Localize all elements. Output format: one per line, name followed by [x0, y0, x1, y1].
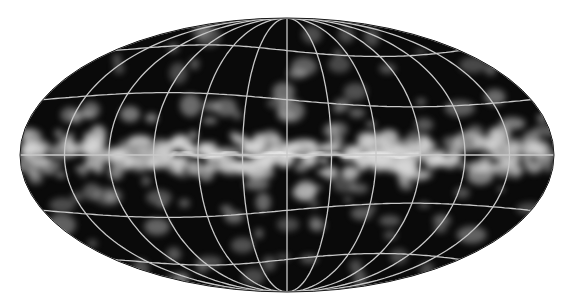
emission-patch: [175, 158, 182, 165]
emission-patch: [50, 198, 76, 212]
emission-patch: [169, 62, 187, 83]
emission-patch: [310, 200, 318, 208]
emission-patch: [309, 215, 321, 230]
emission-patch: [83, 183, 101, 200]
emission-patch: [467, 166, 493, 186]
emission-patch: [534, 146, 542, 153]
emission-patch: [38, 162, 49, 172]
emission-patch: [467, 125, 483, 140]
emission-patch: [332, 105, 344, 113]
emission-patch: [532, 125, 562, 137]
emission-patch: [269, 145, 279, 149]
emission-patch: [306, 184, 323, 191]
emission-patch: [259, 165, 275, 180]
emission-patch: [277, 218, 299, 232]
emission-patch: [180, 94, 201, 117]
emission-patch: [536, 152, 553, 168]
emission-patch: [401, 147, 406, 154]
emission-patch: [358, 165, 368, 170]
emission-patch: [231, 238, 254, 254]
emission-patch: [319, 158, 329, 163]
emission-patch: [522, 157, 532, 166]
emission-patch: [55, 129, 63, 137]
emission-patch: [459, 163, 466, 168]
emission-patch: [224, 211, 243, 224]
all-sky-map: [0, 0, 576, 304]
emission-patch: [179, 199, 190, 208]
emission-patch: [120, 106, 140, 122]
emission-patch: [368, 157, 391, 169]
emission-patch: [79, 170, 87, 177]
emission-patch: [144, 218, 169, 235]
emission-patch: [239, 160, 248, 168]
emission-patch: [47, 214, 76, 236]
emission-patch: [493, 159, 517, 178]
emission-patch: [51, 163, 63, 168]
emission-patch: [340, 144, 351, 152]
emission-patch: [416, 98, 426, 106]
emission-patch: [145, 113, 157, 123]
emission-patch: [256, 193, 271, 212]
emission-patch: [445, 100, 475, 116]
emission-patch: [317, 170, 326, 174]
emission-patch: [199, 166, 214, 181]
emission-patch: [349, 259, 362, 273]
emission-patch: [119, 139, 133, 149]
emission-patch: [404, 168, 417, 178]
emission-patch: [262, 256, 276, 271]
emission-patch: [244, 179, 269, 190]
emission-patch: [349, 108, 365, 118]
emission-patch: [243, 140, 268, 153]
emission-patch: [229, 131, 238, 139]
emission-patch: [433, 214, 451, 226]
emission-patch: [330, 137, 343, 145]
emission-patch: [291, 139, 319, 151]
emission-patch: [156, 155, 169, 168]
emission-patch: [353, 147, 363, 155]
emission-patch: [176, 136, 186, 142]
emission-patch: [255, 228, 264, 238]
emission-patch: [294, 163, 308, 173]
emission-patch: [328, 56, 350, 73]
emission-patch: [363, 139, 380, 149]
emission-patch: [399, 181, 413, 190]
emission-patch: [419, 137, 430, 143]
emission-patch: [88, 239, 98, 247]
emission-patch: [141, 176, 150, 186]
emission-patch: [113, 54, 122, 64]
emission-patch: [167, 247, 182, 261]
emission-patch: [27, 170, 41, 178]
emission-patch: [90, 135, 107, 149]
emission-patch: [56, 171, 65, 178]
emission-patch: [92, 160, 105, 175]
emission-patch: [67, 143, 80, 153]
emission-patch: [189, 131, 198, 140]
emission-patch: [379, 215, 401, 226]
emission-patch: [203, 118, 218, 124]
emission-patch: [344, 197, 352, 202]
emission-patch: [287, 69, 307, 79]
emission-patch: [415, 49, 428, 54]
emission-patch: [151, 147, 165, 155]
emission-patch: [518, 147, 528, 154]
emission-patch: [453, 155, 460, 161]
emission-patch: [350, 183, 369, 193]
emission-patch: [134, 163, 142, 168]
emission-patch: [20, 147, 36, 159]
